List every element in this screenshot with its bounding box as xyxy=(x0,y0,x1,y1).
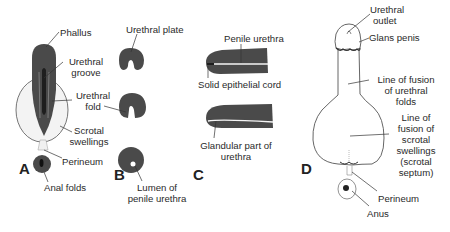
label-perineum-a: Perineum xyxy=(62,156,103,167)
label-line-fusion-urethral-folds: Line of fusion of urethral folds xyxy=(366,74,446,107)
glans-penis-shape xyxy=(335,24,361,50)
label-urethral-outlet: Urethral outlet xyxy=(370,4,404,26)
panel-letter-a: A xyxy=(19,160,30,177)
label-penile-urethra: Penile urethra xyxy=(224,33,284,44)
label-glans-penis: Glans penis xyxy=(369,32,420,43)
panel-letter-c: C xyxy=(193,166,204,183)
label-solid-epithelial-cord: Solid epithelial cord xyxy=(198,79,281,90)
urethral-groove-shape xyxy=(42,68,46,115)
glandular-urethra-longitudinal xyxy=(206,104,273,128)
label-urethral-fold: Urethral fold xyxy=(70,90,116,112)
label-line-fusion-scrotal-swellings: Line of fusion of scrotal swellings (scr… xyxy=(386,112,446,178)
label-lumen-penile-urethra: Lumen of penile urethra xyxy=(118,182,196,204)
panel-c-illustration xyxy=(206,44,273,138)
urethral-fold-cross-section xyxy=(119,93,146,118)
panel-letter-d: D xyxy=(301,160,312,177)
panel-letter-b: B xyxy=(114,166,125,183)
label-urethral-groove: Urethral groove xyxy=(63,56,109,78)
label-perineum-d: Perineum xyxy=(378,193,419,204)
label-anal-folds: Anal folds xyxy=(44,182,86,193)
label-phallus: Phallus xyxy=(60,27,91,38)
label-glandular-urethra: Glandular part of urethra xyxy=(190,140,282,162)
label-urethral-plate: Urethral plate xyxy=(126,24,184,35)
label-scrotal-swellings: Scrotal swellings xyxy=(65,125,113,147)
penile-urethra-longitudinal xyxy=(206,48,268,74)
label-anus: Anus xyxy=(367,208,389,219)
